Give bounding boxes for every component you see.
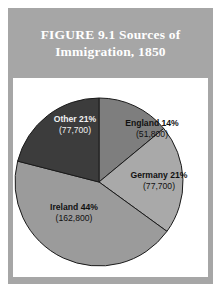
pie-label-germany-count: (77,700) — [113, 181, 205, 192]
pie-label-ireland-count: (162,800) — [31, 213, 117, 224]
pie-label-germany-title: Germany 21% — [113, 170, 205, 181]
pie-label-ireland: Ireland 44% (162,800) — [31, 202, 117, 223]
pie-label-england-title: England 14% — [109, 118, 195, 129]
pie-label-germany: Germany 21% (77,700) — [113, 170, 205, 191]
pie-label-other-count: (77,700) — [35, 125, 115, 136]
pie-chart: Other 21% (77,700) England 14% (51,800) … — [13, 78, 208, 277]
pie-label-other: Other 21% (77,700) — [35, 114, 115, 135]
figure-title-band: FIGURE 9.1 Sources of Immigration, 1850 — [8, 8, 213, 78]
figure-title: FIGURE 9.1 Sources of Immigration, 1850 — [33, 26, 189, 60]
pie-label-ireland-title: Ireland 44% — [31, 202, 117, 213]
pie-label-england-count: (51,800) — [109, 129, 195, 140]
pie-label-england: England 14% (51,800) — [109, 118, 195, 139]
figure-container: FIGURE 9.1 Sources of Immigration, 1850 … — [0, 0, 221, 292]
pie-label-other-title: Other 21% — [35, 114, 115, 125]
chart-plate: Other 21% (77,700) England 14% (51,800) … — [13, 78, 208, 277]
figure-panel: FIGURE 9.1 Sources of Immigration, 1850 … — [8, 8, 213, 284]
